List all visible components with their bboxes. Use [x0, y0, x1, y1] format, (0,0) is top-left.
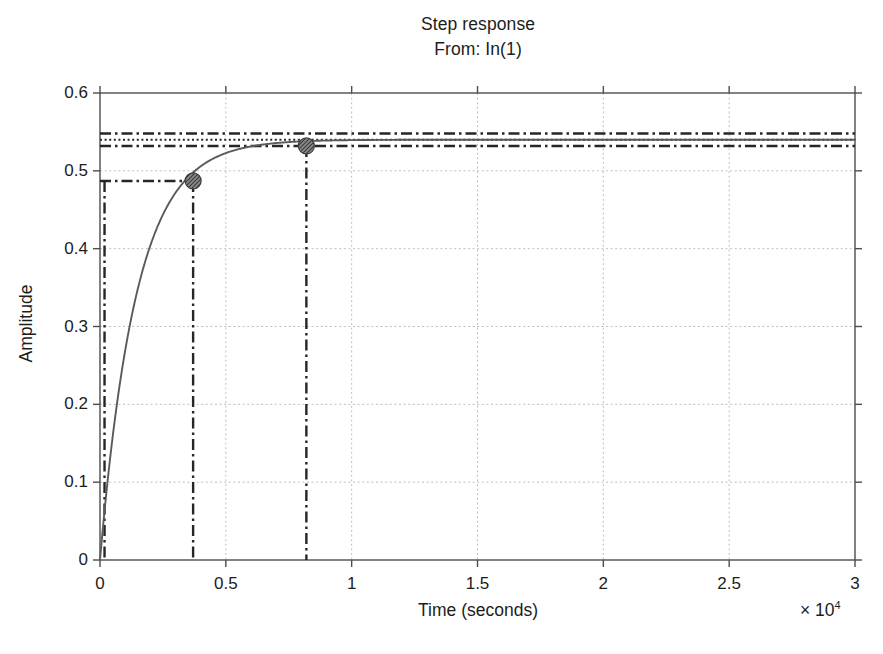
step-response-figure: Step response From: In(1) Amplitude Time…: [0, 0, 883, 654]
series-line-step-response: [100, 140, 855, 560]
settling-time-marker[interactable]: [298, 138, 314, 154]
gridlines: [100, 93, 855, 560]
data-series: [100, 140, 855, 560]
plot-canvas: [0, 0, 883, 654]
rise-time-marker[interactable]: [185, 173, 201, 189]
